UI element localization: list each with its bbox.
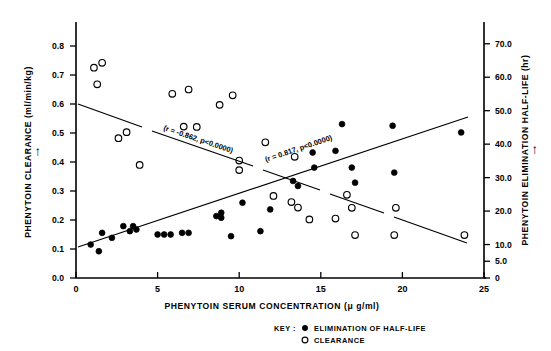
y-left-ticklabel-4: 0.4	[52, 157, 64, 167]
axis-titles: PHENYTOIN CLEARANCE (ml/min/kg) → PHENYT…	[23, 55, 540, 311]
y-right-ticklabel-6: 50.0	[495, 106, 512, 116]
figure-container: 0.00.10.20.30.40.50.60.70.8 05.010.020.0…	[0, 0, 551, 351]
clearance-point-14	[262, 139, 269, 146]
halflife-point-18	[258, 228, 264, 234]
halflife-point-22	[310, 150, 316, 156]
y-left-ticklabel-1: 0.1	[52, 244, 64, 254]
halflife-point-30	[458, 130, 464, 136]
legend-item-label-0: ELIMINATION OF HALF-LIFE	[314, 324, 426, 333]
halflife-point-4	[120, 223, 126, 229]
y-right-ticklabel-0: 0	[495, 273, 500, 283]
series-clearance-points	[91, 60, 468, 239]
halflife-point-28	[390, 123, 396, 129]
clearance-point-1	[99, 60, 106, 67]
halflife-point-29	[391, 170, 397, 176]
x-ticklabel-2: 10	[234, 284, 244, 294]
halflife-annotation-text: (r = 0.817, p<0.0000)	[264, 133, 334, 164]
clearance-fit-seg1	[78, 104, 142, 127]
halflife-point-1	[96, 248, 102, 254]
y-right-ticklabel-8: 70.0	[495, 39, 512, 49]
y-left-ticklabel-3: 0.3	[52, 186, 64, 196]
y-axis-right-arrow: →	[525, 143, 540, 157]
clearance-point-10	[216, 102, 223, 109]
legend-open-circle-icon	[302, 337, 308, 343]
halflife-point-12	[186, 230, 192, 236]
y-right-ticklabel-4: 30.0	[495, 173, 512, 183]
y-left-ticklabel-0: 0.0	[52, 273, 64, 283]
halflife-point-2	[99, 230, 105, 236]
clearance-point-15	[270, 193, 277, 200]
clearance-fit-seg5	[394, 217, 467, 243]
halflife-point-25	[339, 121, 345, 127]
x-ticklabel-1: 5	[155, 284, 160, 294]
legend: KEY : ELIMINATION OF HALF-LIFE CLEARANCE	[274, 324, 426, 345]
clearance-point-11	[229, 92, 236, 99]
y-left-ticklabel-6: 0.6	[52, 99, 64, 109]
y-right-ticklabel-3: 20.0	[495, 206, 512, 216]
halflife-point-9	[161, 232, 167, 238]
y-axis-left-ticks: 0.00.10.20.30.40.50.60.70.8	[52, 41, 76, 283]
clearance-point-5	[136, 162, 143, 169]
legend-key-label: KEY :	[274, 324, 296, 333]
y-right-ticklabel-5: 40.0	[495, 139, 512, 149]
x-ticklabel-5: 25	[479, 284, 489, 294]
halflife-point-21	[295, 183, 301, 189]
y-right-ticklabel-1: 5.0	[495, 256, 507, 266]
clearance-point-20	[332, 215, 339, 222]
y-right-ticklabel-7: 60.0	[495, 72, 512, 82]
clearance-point-6	[169, 91, 176, 98]
clearance-fit-seg3	[263, 170, 320, 190]
clearance-point-24	[391, 232, 398, 239]
clearance-point-22	[349, 205, 356, 212]
halflife-point-11	[179, 230, 185, 236]
annotation-halflife: (r = 0.817, p<0.0000)	[264, 133, 334, 164]
x-axis-ticks: 0510152025	[73, 272, 489, 294]
x-ticklabel-3: 15	[316, 284, 326, 294]
clearance-point-26	[461, 232, 468, 239]
x-ticklabel-4: 20	[397, 284, 407, 294]
clearance-point-16	[288, 199, 295, 206]
halflife-point-17	[240, 200, 246, 206]
halflife-point-15	[218, 215, 224, 221]
halflife-point-10	[168, 232, 174, 238]
halflife-fit-line	[78, 117, 468, 247]
series-halflife-points	[88, 121, 464, 254]
clearance-point-9	[193, 124, 200, 131]
clearance-point-23	[352, 232, 359, 239]
clearance-point-13	[236, 167, 243, 174]
chart-svg: 0.00.10.20.30.40.50.60.70.8 05.010.020.0…	[0, 0, 551, 351]
y-left-ticklabel-5: 0.5	[52, 128, 64, 138]
clearance-point-25	[393, 205, 400, 212]
legend-filled-circle-icon	[302, 325, 307, 330]
halflife-point-27	[352, 180, 358, 186]
y-left-ticklabel-8: 0.8	[52, 41, 64, 51]
halflife-point-16	[228, 233, 234, 239]
halflife-point-19	[267, 207, 273, 213]
clearance-point-19	[306, 216, 313, 223]
clearance-point-21	[344, 191, 351, 198]
clearance-point-4	[123, 129, 130, 136]
clearance-point-18	[295, 204, 302, 211]
y-left-ticklabel-7: 0.7	[52, 70, 64, 80]
clearance-point-0	[91, 64, 98, 71]
halflife-point-24	[333, 148, 339, 154]
y-right-ticklabel-2: 10.0	[495, 240, 512, 250]
y-axis-right-ticks: 05.010.020.030.040.050.060.070.0	[484, 39, 512, 283]
clearance-fit-seg4	[330, 194, 384, 213]
y-left-ticklabel-2: 0.2	[52, 215, 64, 225]
halflife-point-8	[155, 232, 161, 238]
halflife-point-26	[349, 165, 355, 171]
clearance-point-7	[185, 86, 192, 93]
clearance-point-2	[94, 81, 101, 88]
x-ticklabel-0: 0	[73, 284, 78, 294]
clearance-point-3	[115, 135, 122, 142]
x-axis-title: PHENYTOIN SERUM CONCENTRATION (μ g/ml)	[165, 301, 380, 311]
y-axis-left-arrow: →	[28, 145, 43, 159]
regression-lines	[78, 104, 468, 247]
legend-item-label-1: CLEARANCE	[314, 336, 365, 345]
